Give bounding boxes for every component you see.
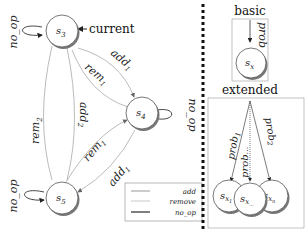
label-s5-s3-add: add2 (76, 102, 91, 128)
right-diagram: basic prob sx extended prob1 prob... pro… (208, 4, 304, 228)
state-s5[interactable]: s5 (46, 182, 80, 216)
basic-prob-label: prob (256, 22, 269, 48)
label-s3-loop: no_op (7, 16, 20, 49)
label-s3-s4-add: add1 (107, 46, 136, 73)
label-s4-s3-rem: rem1 (81, 60, 111, 88)
legend-remove: remove (170, 198, 196, 206)
legend-add: add (183, 188, 197, 196)
basic-panel: basic prob sx (232, 4, 269, 81)
label-s5-s4-rem: rem1 (80, 135, 108, 165)
state-sx[interactable]: sx (236, 48, 268, 80)
loop-s3 (23, 26, 43, 35)
extended-panel: extended prob1 prob... prob2 sx1 sxn (208, 83, 304, 228)
ext-prob2-label: prob2 (261, 116, 279, 146)
label-s3-s5-rem: rem2 (29, 117, 44, 144)
extended-title: extended (222, 83, 278, 97)
legend: add remove no_op (125, 183, 202, 221)
label-s5-loop: no_op (7, 180, 20, 213)
loop-s5 (25, 191, 45, 201)
edge-s3-s5-rem2 (44, 46, 53, 180)
state-transition-diagram: current s3 s4 s5 no_op no_op no_op add1 … (0, 0, 306, 233)
label-s4-loop: no_op (186, 99, 199, 132)
left-diagram: current s3 s4 s5 no_op no_op no_op add1 … (7, 15, 202, 221)
state-s3[interactable]: s3 (46, 15, 80, 49)
current-label: current (89, 22, 135, 36)
state-s4[interactable]: s4 (126, 97, 160, 131)
edge-s5-s3-add2 (67, 48, 75, 180)
basic-title: basic (234, 4, 266, 18)
ext-prob-mid-label: prob... (239, 147, 250, 178)
legend-noop: no_op (175, 209, 196, 217)
